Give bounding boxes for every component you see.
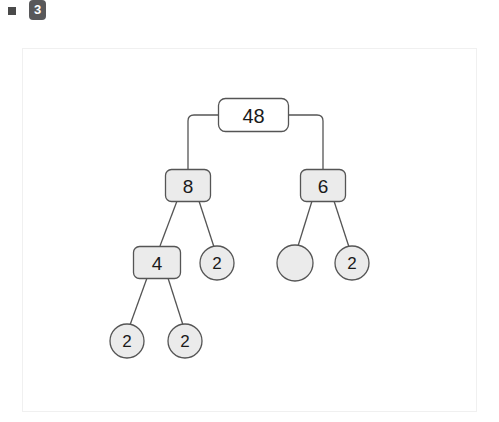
node-label-4: 4 (152, 253, 163, 274)
tree-node-2-leaf-left: 2 (110, 324, 144, 358)
edge-8-to-4 (160, 201, 177, 246)
edge-6-to-blank (298, 201, 312, 246)
node-label-2c: 2 (122, 332, 131, 351)
tree-node-2-under-8: 2 (200, 246, 234, 280)
edge-8-to-2 (199, 201, 214, 247)
factor-tree-svg: 48 8 6 4 2 2 2 2 (0, 0, 499, 422)
node-label-48: 48 (242, 105, 264, 127)
tree-node-48: 48 (219, 99, 289, 132)
tree-node-8: 8 (166, 170, 211, 202)
edge-6-to-2 (334, 201, 349, 247)
node-shape-circle-blank[interactable] (277, 245, 313, 281)
node-label-8: 8 (183, 176, 194, 197)
edge-48-to-8 (188, 115, 219, 170)
tree-node-blank-answer[interactable] (277, 245, 313, 281)
node-label-6: 6 (318, 176, 329, 197)
tree-node-2-leaf-right: 2 (168, 324, 202, 358)
tree-node-2-under-6: 2 (335, 246, 369, 280)
edge-4-to-2-right (168, 278, 183, 325)
edge-4-to-2-left (130, 278, 147, 325)
node-label-2d: 2 (180, 332, 189, 351)
edge-48-to-6 (289, 115, 324, 170)
tree-node-6: 6 (301, 170, 346, 202)
node-label-2b: 2 (347, 254, 356, 273)
tree-connectors (130, 115, 349, 325)
node-label-2a: 2 (212, 254, 221, 273)
tree-node-4: 4 (134, 247, 181, 279)
